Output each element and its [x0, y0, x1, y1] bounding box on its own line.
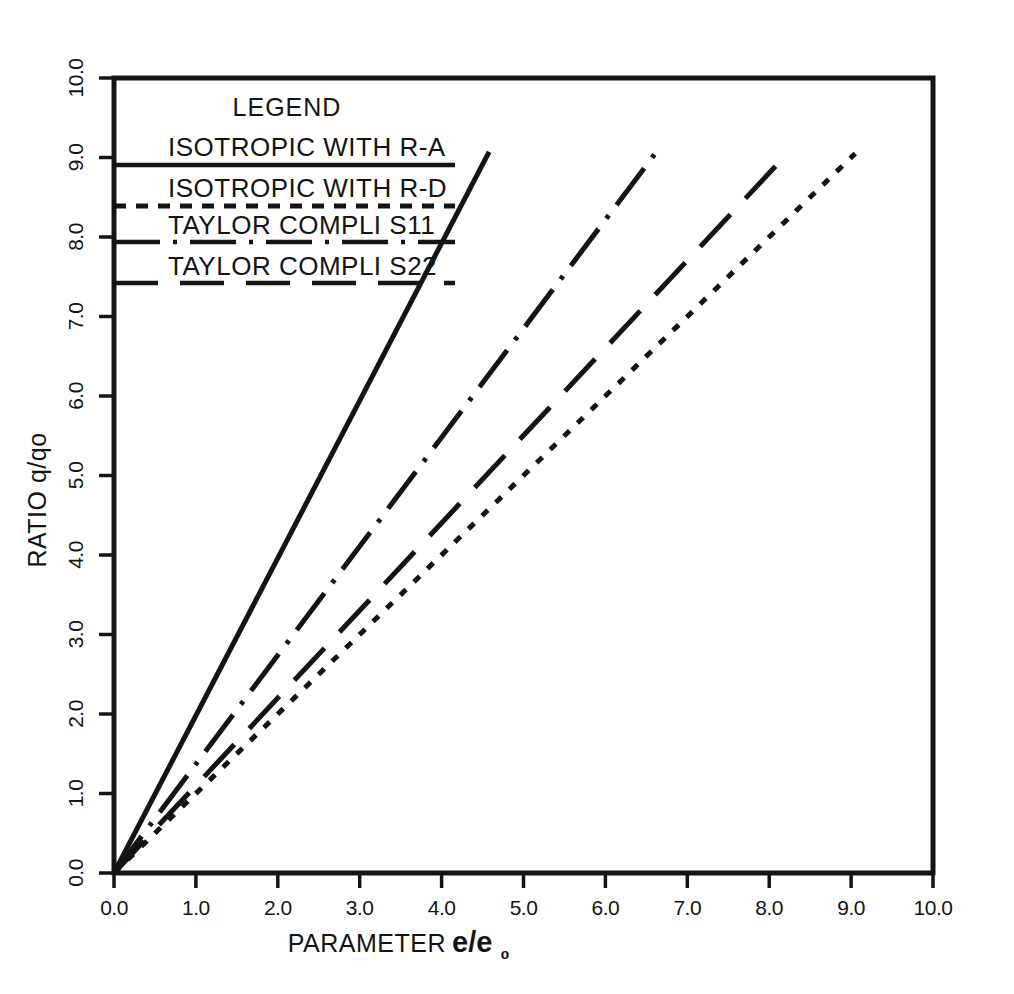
x-tick-label: 2.0 [264, 896, 292, 919]
chart-figure: 0.0 1.0 2.0 3.0 4.0 5.0 6.0 7.0 8.0 9.0 … [0, 0, 1014, 994]
legend-label: TAYLOR COMPLI S11 [168, 210, 435, 240]
y-axis-title: RATIO q/qo [23, 432, 51, 567]
x-tick-label: 10.0 [914, 896, 953, 919]
x-axis-title-subscript: ₀ [500, 938, 510, 963]
y-tick-label: 0.0 [64, 859, 87, 887]
y-tick-label: 6.0 [64, 382, 87, 410]
y-tick-label: 9.0 [64, 144, 87, 172]
x-tick-label: 5.0 [510, 896, 538, 919]
x-tick-label: 4.0 [428, 896, 456, 919]
x-axis-title-symbol: e/e [452, 926, 492, 958]
x-axis-title-prefix: PARAMETER [288, 929, 446, 957]
y-tick-label: 8.0 [64, 223, 87, 251]
y-tick-label: 5.0 [64, 462, 87, 490]
x-tick-label: 1.0 [182, 896, 210, 919]
x-tick-label: 0.0 [100, 896, 128, 919]
y-tick-label: 4.0 [64, 541, 87, 569]
x-tick-label: 6.0 [592, 896, 620, 919]
y-tick-label: 3.0 [64, 621, 87, 649]
y-tick-label: 2.0 [64, 700, 87, 728]
legend-label: ISOTROPIC WITH R-D [168, 173, 447, 203]
y-tick-label: 1.0 [64, 780, 87, 808]
legend-title: LEGEND [233, 93, 342, 121]
figure-background [0, 0, 1014, 994]
y-tick-label: 7.0 [64, 303, 87, 331]
x-tick-label: 9.0 [837, 896, 865, 919]
y-tick-label: 10.0 [64, 59, 87, 98]
x-tick-label: 8.0 [755, 896, 783, 919]
x-tick-label: 7.0 [673, 896, 701, 919]
legend-label: ISOTROPIC WITH R-A [168, 132, 446, 162]
x-tick-label: 3.0 [346, 896, 374, 919]
chart-svg: 0.0 1.0 2.0 3.0 4.0 5.0 6.0 7.0 8.0 9.0 … [0, 0, 1014, 994]
legend-label: TAYLOR COMPLI S22 [168, 251, 437, 281]
